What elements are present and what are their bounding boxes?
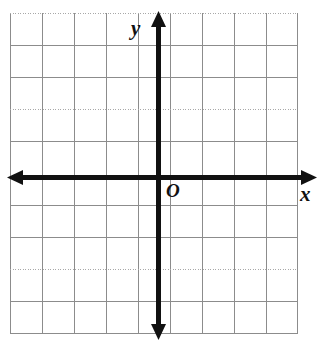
x-axis-label: x [300,184,311,205]
y-axis-label: y [131,18,140,39]
axes [0,0,324,345]
y-axis-top-arrow-icon [151,11,166,27]
origin-label: O [166,181,180,200]
y-axis-bottom-arrow-icon [151,324,166,340]
x-axis-left-arrow-icon [7,170,23,185]
coordinate-plane-figure: y x O [0,0,324,345]
